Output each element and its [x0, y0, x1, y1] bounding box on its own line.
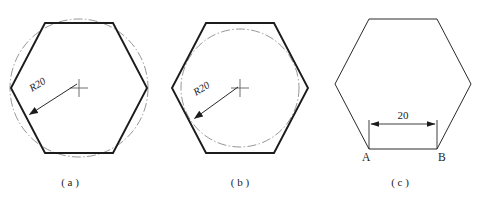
- figure-c: 20 A B ( c ): [335, 19, 471, 189]
- vertex-label-b: B: [438, 151, 446, 163]
- center-mark-b: [231, 79, 249, 97]
- center-mark-a: [70, 79, 88, 97]
- caption-c: ( c ): [391, 176, 409, 189]
- figure-a: R20 ( a ): [10, 19, 148, 189]
- radius-label-a: R20: [26, 75, 48, 94]
- radius-label-b: R20: [190, 79, 212, 98]
- dimension-label-c: 20: [398, 109, 410, 121]
- figure-board: R20 ( a ) R20 ( b ) 20 A B: [0, 0, 491, 198]
- technical-drawing-canvas: R20 ( a ) R20 ( b ) 20 A B: [0, 0, 491, 198]
- caption-a: ( a ): [61, 176, 79, 189]
- figure-b: R20 ( b ): [172, 23, 308, 189]
- vertex-label-a: A: [362, 151, 371, 163]
- caption-b: ( b ): [231, 176, 250, 189]
- hexagon-outline-c: [335, 19, 471, 149]
